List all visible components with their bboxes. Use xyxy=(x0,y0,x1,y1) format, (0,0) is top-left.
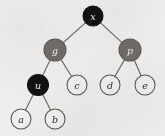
edge-layer xyxy=(25,22,141,110)
tree-edge-g-u xyxy=(42,59,50,76)
tree-edge-x-p xyxy=(100,22,122,42)
tree-node-label-u: u xyxy=(35,80,41,91)
tree-node-u[interactable]: u xyxy=(28,75,49,96)
tree-edge-p-d xyxy=(115,59,125,77)
tree-node-label-c: c xyxy=(74,80,80,91)
tree-node-label-p: p xyxy=(127,45,133,56)
tree-edge-u-a xyxy=(25,94,33,111)
tree-node-b[interactable]: b xyxy=(45,109,65,129)
tree-node-label-d: d xyxy=(107,80,113,91)
tree-edge-p-e xyxy=(134,60,141,77)
tree-diagram: xgpucdeab xyxy=(0,0,165,136)
tree-node-e[interactable]: e xyxy=(135,75,155,95)
tree-edge-g-c xyxy=(61,59,72,77)
tree-node-g[interactable]: g xyxy=(44,39,66,61)
tree-canvas: xgpucdeab xyxy=(0,0,165,136)
tree-node-label-a: a xyxy=(18,114,24,125)
tree-node-label-x: x xyxy=(90,11,96,22)
tree-node-label-e: e xyxy=(142,80,148,91)
tree-node-x[interactable]: x xyxy=(83,6,103,26)
tree-node-p[interactable]: p xyxy=(119,39,141,61)
tree-node-a[interactable]: a xyxy=(11,109,31,129)
tree-node-label-b: b xyxy=(52,114,58,125)
tree-edge-u-b xyxy=(42,94,50,111)
tree-node-c[interactable]: c xyxy=(67,75,87,95)
tree-node-label-g: g xyxy=(52,45,58,56)
tree-edge-x-g xyxy=(63,22,86,43)
tree-node-d[interactable]: d xyxy=(100,75,120,95)
